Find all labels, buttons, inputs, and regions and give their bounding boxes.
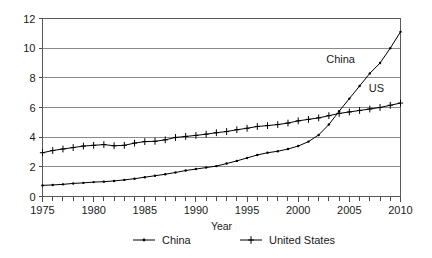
legend-label: China (162, 234, 192, 246)
data-point (287, 148, 289, 150)
data-point (92, 181, 94, 183)
data-point (144, 176, 146, 178)
data-point (236, 160, 238, 162)
y-tick-label-10: 10 (23, 42, 35, 54)
y-tick-label-6: 6 (29, 102, 35, 114)
data-point (62, 183, 64, 185)
data-point (103, 180, 105, 182)
data-point (52, 184, 54, 186)
data-point (123, 179, 125, 181)
data-point (317, 134, 319, 136)
y-tick-label-0: 0 (29, 191, 35, 203)
data-point (215, 165, 217, 167)
data-point (277, 150, 279, 152)
data-point (113, 180, 115, 182)
y-tick-label-4: 4 (29, 131, 35, 143)
data-point (307, 140, 309, 142)
data-point (41, 184, 43, 186)
data-point (358, 85, 360, 87)
data-point (133, 178, 135, 180)
data-point (369, 72, 371, 74)
chart-container: 024681012 197519801985199019952000200520… (0, 0, 432, 258)
x-tick-label-1975: 1975 (30, 204, 54, 216)
x-tick-label-2000: 2000 (286, 204, 310, 216)
data-point (225, 162, 227, 164)
x-tick-label-1985: 1985 (133, 204, 157, 216)
data-point (328, 123, 330, 125)
data-point (266, 152, 268, 154)
x-tick-label-2010: 2010 (388, 204, 412, 216)
y-tick-label-8: 8 (29, 72, 35, 84)
y-tick-label-12: 12 (23, 13, 35, 25)
data-point (195, 168, 197, 170)
x-tick-label-1980: 1980 (81, 204, 105, 216)
annotation-china: China (326, 53, 356, 65)
data-point (297, 145, 299, 147)
line-chart: 024681012 197519801985199019952000200520… (0, 0, 432, 258)
x-tick-label-1995: 1995 (235, 204, 259, 216)
y-tick-label-2: 2 (29, 161, 35, 173)
legend-label: United States (269, 234, 336, 246)
data-point (348, 97, 350, 99)
data-point (72, 182, 74, 184)
data-point (185, 169, 187, 171)
x-axis-title: Year (211, 220, 233, 232)
data-point (399, 31, 401, 33)
x-tick-label-1990: 1990 (184, 204, 208, 216)
data-point (389, 47, 391, 49)
x-tick-label-2005: 2005 (337, 204, 361, 216)
data-point (82, 182, 84, 184)
data-point (379, 62, 381, 64)
data-point (246, 157, 248, 159)
data-point (174, 171, 176, 173)
data-point (256, 154, 258, 156)
data-point (164, 173, 166, 175)
data-point (154, 175, 156, 177)
data-point (205, 166, 207, 168)
legend-marker-dot (143, 239, 146, 242)
annotation-us: US (369, 82, 384, 94)
